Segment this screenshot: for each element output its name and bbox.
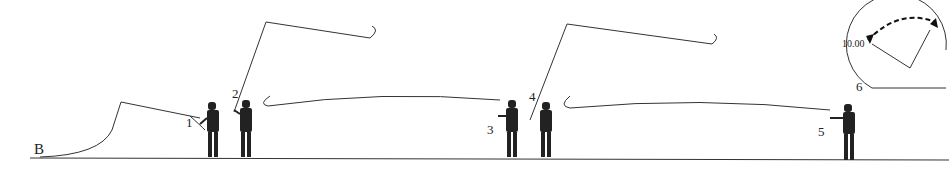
fly-line-pickup [40,102,200,157]
fly-casting-diagram: B 1 2 3 4 5 6 10.00 [0,0,949,173]
corner-label: B [34,141,44,157]
ground-line [30,158,949,160]
step-label-3: 3 [487,122,494,137]
angler-figure-4 [540,102,552,157]
angler-figure-3 [498,100,518,157]
arrow-head-right-icon [930,18,938,28]
step-label-6: 6 [856,79,863,94]
fly-line-forward-5 [564,96,830,110]
fly-line-backcast-4 [530,24,717,120]
angler-figure-1 [200,102,219,157]
step-label-4: 4 [529,89,536,104]
angler-figure-2 [234,100,252,157]
step-label-1: 1 [186,115,193,130]
swing-arc-arrow [868,18,935,40]
arrow-head-left-icon [866,34,874,44]
angler-figure-5 [830,104,855,160]
step-label-2: 2 [232,86,239,101]
fly-line-backcast-2 [234,22,376,112]
step-label-5: 5 [818,124,825,139]
clock-time-label: 10.00 [842,38,865,49]
fly-line-forward-3 [263,96,500,106]
